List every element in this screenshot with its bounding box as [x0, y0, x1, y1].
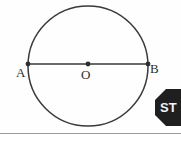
point-label-o: O	[81, 68, 90, 81]
point-label-b: B	[150, 62, 159, 75]
screenshot-root: A O B ST	[0, 0, 181, 142]
stop-sign-label: ST	[160, 101, 177, 114]
point-a-dot	[26, 62, 31, 67]
point-label-a: A	[16, 66, 25, 79]
bottom-margin-strip	[0, 134, 181, 142]
point-o-dot	[86, 62, 91, 67]
